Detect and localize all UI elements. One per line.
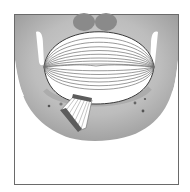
foramen-dot	[134, 102, 137, 105]
foramen-dot	[59, 102, 62, 105]
anatomy-figure	[0, 0, 190, 192]
foramen-dot	[48, 105, 51, 108]
dark-lobe-left	[73, 13, 95, 31]
foramen-dot	[144, 98, 146, 100]
mandible-illustration	[0, 0, 190, 192]
foramen-dot	[142, 110, 145, 113]
dark-lobe-right	[95, 13, 117, 31]
muscle-fibers	[44, 32, 154, 104]
